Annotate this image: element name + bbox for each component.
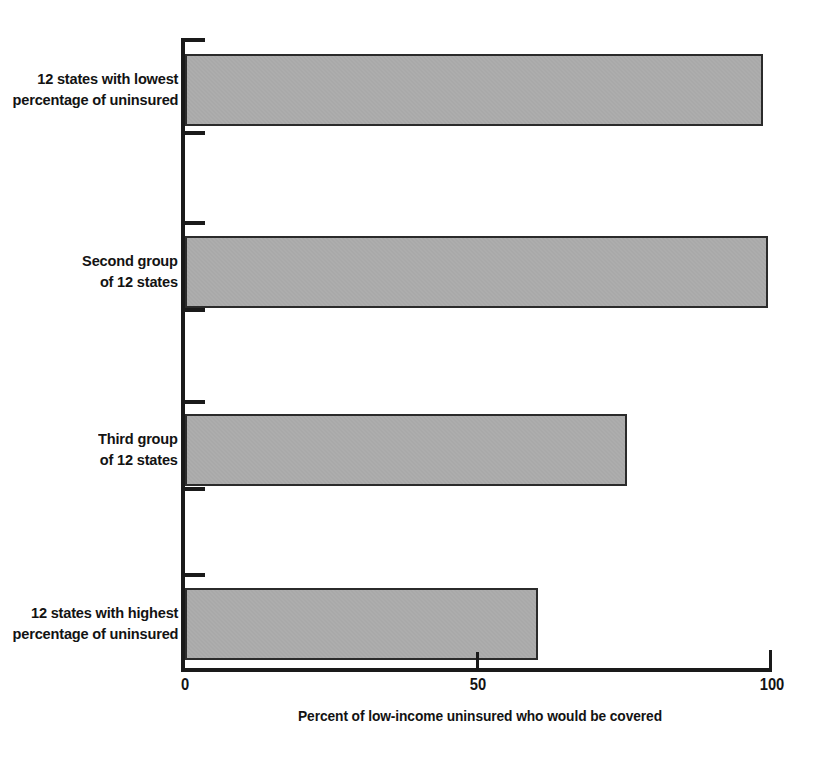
x-axis-tick-label-50: 50 [470, 676, 486, 694]
category-label-line1: 12 states with lowest [12, 68, 178, 89]
category-label-line1: Third group [98, 428, 178, 449]
bar-third-group [185, 414, 627, 486]
bar-second-group [185, 236, 768, 308]
chart-figure: 12 states with lowest percentage of unin… [0, 0, 819, 759]
category-label-line1: 12 states with highest [12, 602, 178, 623]
category-label-highest-uninsured: 12 states with highest percentage of uni… [12, 602, 178, 644]
category-label-second-group: Second group of 12 states [82, 250, 178, 292]
y-axis-tick-3 [185, 308, 205, 312]
y-axis-tick-2 [185, 221, 205, 225]
x-axis-tick-100 [769, 650, 772, 670]
y-axis-tick-6 [185, 573, 205, 577]
x-axis-tick-label-100: 100 [760, 676, 785, 694]
category-label-line2: percentage of uninsured [12, 89, 178, 110]
y-axis-tick-1 [185, 131, 205, 135]
category-label-line2: percentage of uninsured [12, 623, 178, 644]
bar-highest-uninsured [185, 588, 538, 660]
y-axis-tick-5 [185, 487, 205, 491]
category-label-line2: of 12 states [82, 271, 178, 292]
category-label-lowest-uninsured: 12 states with lowest percentage of unin… [12, 68, 178, 110]
plot-area: 12 states with lowest percentage of unin… [0, 0, 819, 759]
bar-lowest-uninsured [185, 54, 763, 126]
category-label-line2: of 12 states [98, 449, 178, 470]
x-axis-tick-label-0: 0 [181, 676, 189, 694]
y-axis-tick-4 [185, 400, 205, 404]
category-label-line1: Second group [82, 250, 178, 271]
y-axis-tick-0 [185, 38, 205, 42]
x-axis-tick-0 [182, 650, 185, 670]
x-axis-caption: Percent of low-income uninsured who woul… [24, 708, 819, 724]
x-axis-tick-50 [476, 652, 479, 669]
category-label-third-group: Third group of 12 states [98, 428, 178, 470]
